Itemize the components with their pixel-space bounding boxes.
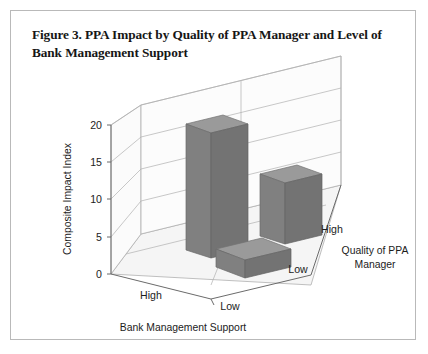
figure-container: Figure 3. PPA Impact by Quality of PPA M… <box>10 10 416 340</box>
y-tick-label-20: 20 <box>90 119 102 131</box>
y-axis-title: Composite Impact Index <box>62 142 73 255</box>
bar-front-face <box>186 124 211 258</box>
bar-high-support-high-quality[interactable] <box>186 115 248 258</box>
bar-front-face <box>260 174 285 244</box>
y-tick-label-0: 0 <box>96 268 102 280</box>
y-axis: 20 15 10 5 0 Composite Impact Index <box>62 119 111 280</box>
y-tick-label-15: 15 <box>90 156 102 168</box>
x-category-low: Low <box>220 300 240 312</box>
bar-side-face <box>285 174 322 244</box>
x-axis-title: Bank Management Support <box>120 322 247 333</box>
x-category-high: High <box>140 289 162 301</box>
chart-svg: 20 15 10 5 0 Composite Impact Index <box>11 11 417 341</box>
z-axis-title-line1: Quality of PPA <box>342 245 409 256</box>
bar-low-support-high-quality[interactable] <box>260 165 322 244</box>
y-tick-label-10: 10 <box>90 193 102 205</box>
z-axis-title-line2: Manager <box>354 259 396 270</box>
y-tick-label-5: 5 <box>96 231 102 243</box>
chart-plot-area: 20 15 10 5 0 Composite Impact Index <box>11 11 417 341</box>
z-category-high: High <box>321 223 343 235</box>
x-axis-categories: High Low Bank Management Support <box>120 289 247 333</box>
bar-side-face <box>211 124 248 258</box>
z-category-low: Low <box>288 263 308 275</box>
